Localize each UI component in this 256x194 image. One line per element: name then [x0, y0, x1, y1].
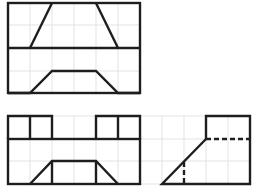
- three-view-drawing: [0, 0, 256, 194]
